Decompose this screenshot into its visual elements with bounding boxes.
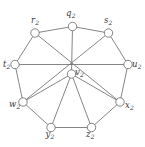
vertex-label-t2: t2 — [3, 60, 10, 70]
graph-vertex-t2 — [11, 60, 19, 68]
vertex-label-sub-z2: 2 — [91, 133, 95, 140]
vertex-label-sub-x2: 2 — [130, 104, 134, 111]
vertex-label-x2: x2 — [125, 101, 134, 111]
vertex-label-sub-q2: 2 — [72, 12, 76, 19]
graph-edge-y2-v2 — [53, 78, 71, 124]
vertex-label-sub-w2: 2 — [16, 103, 20, 110]
vertex-label-sub-y2: 2 — [51, 133, 55, 140]
graph-edge-w2-t2 — [16, 69, 22, 98]
graph-edge-x2-v2 — [75, 76, 116, 100]
vertex-label-base-q2: q — [66, 8, 71, 18]
graph-edge-q2-s2 — [77, 27, 105, 32]
graph-edge-x2-z2 — [95, 105, 117, 125]
graph-edge-z2-v2 — [73, 78, 90, 124]
vertex-label-sub-s2: 2 — [109, 19, 113, 26]
vertex-label-base-t2: t — [3, 59, 6, 69]
graph-edge-s2-u2 — [111, 37, 126, 61]
graph-edge-t2-r2 — [17, 37, 33, 61]
vertex-label-v2: v2 — [75, 68, 84, 78]
graph-edge-q2-v2 — [72, 31, 73, 70]
graph-figure: q2s2u2x2z2y2w2t2r2v2 — [0, 0, 145, 147]
vertex-label-base-z2: z — [86, 129, 90, 139]
graph-edge-y2-w2 — [26, 105, 48, 125]
graph-canvas — [0, 0, 145, 147]
vertex-label-r2: r2 — [31, 16, 39, 26]
vertex-label-sub-t2: 2 — [7, 63, 11, 70]
graph-edge-w2-v2 — [27, 76, 68, 100]
graph-vertex-r2 — [31, 29, 39, 37]
nodes-layer — [11, 22, 132, 131]
graph-vertex-x2 — [116, 98, 124, 106]
vertex-label-sub-r2: 2 — [35, 19, 39, 26]
vertex-label-z2: z2 — [86, 130, 95, 140]
graph-edge-u2-x2 — [121, 69, 127, 98]
vertex-label-s2: s2 — [104, 16, 112, 26]
graph-vertex-s2 — [104, 29, 112, 37]
graph-edge-r2-q2 — [39, 27, 68, 32]
vertex-label-sub-u2: 2 — [138, 63, 142, 70]
vertex-label-q2: q2 — [66, 9, 75, 19]
vertex-label-y2: y2 — [46, 130, 55, 140]
vertex-label-base-u2: u — [132, 59, 137, 69]
vertex-label-w2: w2 — [9, 100, 20, 110]
vertex-label-u2: u2 — [132, 60, 142, 70]
graph-vertex-u2 — [124, 60, 132, 68]
graph-vertex-q2 — [68, 22, 76, 30]
vertex-label-base-y2: y — [46, 129, 51, 139]
vertex-label-base-s2: s — [104, 15, 108, 25]
vertex-label-sub-v2: 2 — [80, 71, 84, 78]
